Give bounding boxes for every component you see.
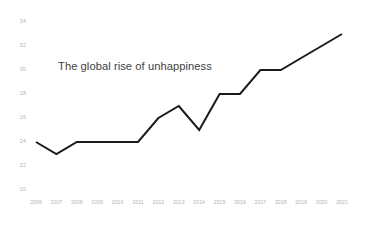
chart-title: The global rise of unhappiness (58, 60, 212, 72)
line-chart: 2022242628303234 20062007200820092010201… (0, 0, 366, 225)
plot-area (0, 0, 366, 225)
series-line-unhappiness (0, 0, 366, 225)
